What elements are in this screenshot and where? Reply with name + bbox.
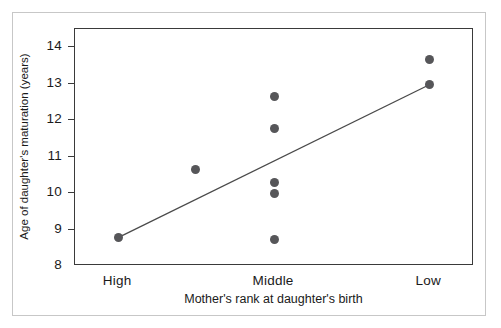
data-point [270, 235, 279, 244]
trendline-svg [75, 29, 474, 266]
x-tick-label-middle: Middle [223, 274, 323, 288]
figure-container: Age of daughter's maturation (years) 891… [0, 0, 501, 328]
data-point [270, 189, 279, 198]
y-tick-label: 8 [0, 258, 62, 272]
y-tick-label: 9 [0, 222, 62, 236]
y-tick-label: 13 [0, 76, 62, 90]
data-point [270, 124, 279, 133]
x-axis-title: Mother's rank at daughter's birth [74, 292, 473, 306]
plot-area [74, 28, 473, 265]
y-tick-label: 14 [0, 39, 62, 53]
data-point [270, 178, 279, 187]
x-tick-label-low: Low [378, 274, 478, 288]
y-tick-label: 11 [0, 149, 62, 163]
trend-line [118, 85, 429, 238]
data-point [270, 92, 279, 101]
y-tick-label: 10 [0, 185, 62, 199]
x-tick-label-high: High [67, 274, 167, 288]
data-point [114, 233, 123, 242]
data-point [191, 165, 200, 174]
plot-inner [75, 29, 472, 264]
y-tick-label: 12 [0, 112, 62, 126]
